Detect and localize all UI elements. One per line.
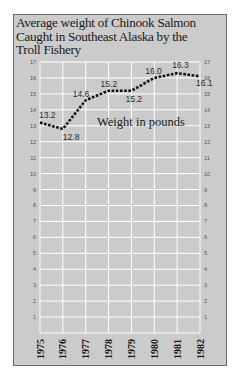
x-tick-label: 1976 xyxy=(57,339,68,359)
y-tick-label-left: 16 xyxy=(30,75,36,81)
line-chart: 1234567891011121314151617 12345678910111… xyxy=(0,0,235,381)
y-tick-label-right: 13 xyxy=(204,123,210,129)
y-tick-label-left: 7 xyxy=(33,218,36,224)
x-tick-label: 1980 xyxy=(149,339,160,359)
y-tick-label-left: 8 xyxy=(33,202,36,208)
x-tick-label: 1981 xyxy=(172,339,183,359)
x-tick-label: 1978 xyxy=(103,339,114,359)
data-value-label: 15.2 xyxy=(101,79,118,89)
y-tick-label-right: 11 xyxy=(204,155,210,161)
y-axis-left-ticks: 1234567891011121314151617 xyxy=(30,59,36,320)
x-axis-year-labels: 19751976197719781979198019811982 xyxy=(35,339,206,359)
y-tick-label-left: 13 xyxy=(30,123,36,129)
x-tick-label: 1982 xyxy=(195,339,206,359)
x-tick-label: 1977 xyxy=(80,339,91,359)
y-tick-label-right: 4 xyxy=(204,266,207,272)
y-axis-right-ticks: 1234567891011121314151617 xyxy=(204,59,210,320)
y-tick-label-left: 3 xyxy=(33,282,36,288)
y-tick-label-left: 9 xyxy=(33,187,36,193)
y-tick-label-right: 10 xyxy=(204,171,210,177)
y-tick-label-left: 1 xyxy=(33,314,36,320)
y-tick-label-right: 3 xyxy=(204,282,207,288)
x-tick-label: 1975 xyxy=(35,339,46,359)
y-tick-label-left: 15 xyxy=(30,91,36,97)
data-value-label: 16.3 xyxy=(172,60,189,70)
data-value-labels: 13.212.814.615.215.216.016.316.1 xyxy=(39,60,213,142)
y-tick-label-left: 10 xyxy=(30,171,36,177)
gridlines xyxy=(40,62,200,333)
data-value-label: 16.1 xyxy=(196,78,213,88)
y-tick-label-left: 11 xyxy=(30,155,36,161)
y-tick-label-left: 12 xyxy=(30,139,36,145)
y-axis-unit-label: Weight in pounds xyxy=(97,115,185,129)
y-tick-label-left: 5 xyxy=(33,250,36,256)
y-tick-label-left: 2 xyxy=(33,298,36,304)
y-tick-label-right: 17 xyxy=(204,59,210,65)
y-tick-label-left: 6 xyxy=(33,234,36,240)
data-value-label: 12.8 xyxy=(63,132,80,142)
y-tick-label-right: 12 xyxy=(204,139,210,145)
y-tick-label-left: 4 xyxy=(33,266,36,272)
data-value-label: 16.0 xyxy=(145,66,162,76)
y-tick-label-right: 8 xyxy=(204,202,207,208)
y-tick-label-left: 14 xyxy=(30,107,36,113)
y-tick-label-right: 1 xyxy=(204,314,207,320)
y-tick-label-right: 7 xyxy=(204,218,207,224)
data-value-label: 13.2 xyxy=(39,110,56,120)
y-tick-label-right: 9 xyxy=(204,187,207,193)
data-value-label: 14.6 xyxy=(73,89,90,99)
y-tick-label-right: 6 xyxy=(204,234,207,240)
y-tick-label-right: 2 xyxy=(204,298,207,304)
y-tick-label-left: 17 xyxy=(30,59,36,65)
y-tick-label-right: 14 xyxy=(204,107,210,113)
y-tick-label-right: 5 xyxy=(204,250,207,256)
data-value-label: 15.2 xyxy=(125,94,142,104)
y-tick-label-right: 15 xyxy=(204,91,210,97)
x-tick-label: 1979 xyxy=(126,339,137,359)
